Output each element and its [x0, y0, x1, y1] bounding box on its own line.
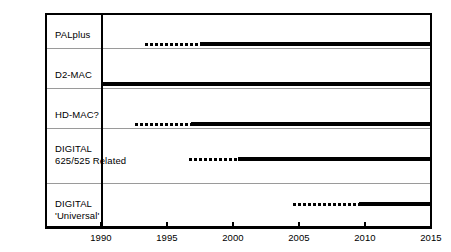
row-label-d2mac: D2-MAC [55, 69, 145, 81]
bar-palplus-dashed [145, 43, 201, 46]
bar-d2mac-solid [101, 82, 432, 86]
row-label-text: DIGITAL [55, 143, 92, 154]
row-label-hdmac: HD-MAC? [55, 109, 145, 121]
x-axis-line [45, 227, 432, 229]
x-tick-label-1990: 1990 [81, 232, 121, 244]
timeline-chart: PALplus D2-MAC HD-MAC? DIGITAL 625/525 R… [0, 0, 451, 252]
x-tick-label-2005: 2005 [279, 232, 319, 244]
bar-digital-universal-dashed [293, 203, 360, 206]
x-tick-label-2015: 2015 [411, 232, 451, 244]
row-label-text: DIGITAL [55, 198, 92, 209]
chart-frame: PALplus D2-MAC HD-MAC? DIGITAL 625/525 R… [45, 13, 432, 228]
row-label-text: HD-MAC? [55, 109, 99, 120]
bar-palplus-solid [200, 42, 432, 46]
row-label-text: PALplus [55, 29, 90, 40]
row-divider-4 [47, 183, 430, 184]
row-label-text-second-line: 625/525 Related [55, 155, 145, 167]
row-label-text-second-line: 'Universal' [55, 210, 145, 222]
x-tick-label-1995: 1995 [147, 232, 187, 244]
bar-digital-universal-solid [359, 202, 432, 206]
bar-digital-625-525-dashed [189, 158, 239, 161]
x-tick-label-2000: 2000 [213, 232, 253, 244]
x-tick-label-2010: 2010 [345, 232, 385, 244]
bar-digital-625-525-solid [238, 157, 432, 161]
row-label-text: D2-MAC [55, 69, 92, 80]
row-label-palplus: PALplus [55, 29, 145, 41]
axis-origin-line [101, 13, 103, 228]
row-divider-2 [47, 88, 430, 89]
row-label-digital-625-525: DIGITAL 625/525 Related [55, 143, 145, 166]
bar-hdmac-dashed [135, 123, 192, 126]
bar-hdmac-solid [191, 122, 432, 126]
row-divider-3 [47, 128, 430, 129]
row-divider-1 [47, 48, 430, 49]
row-label-digital-universal: DIGITAL 'Universal' [55, 198, 145, 221]
